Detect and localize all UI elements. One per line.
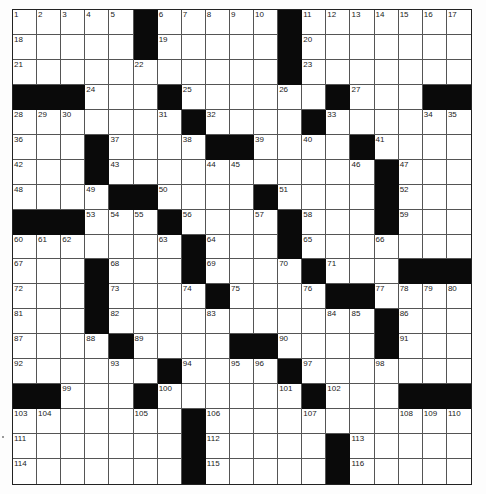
grid-cell[interactable] [182,35,206,60]
grid-cell[interactable] [254,259,278,284]
grid-cell[interactable]: 34 [423,110,447,135]
grid-cell[interactable]: 4 [85,10,109,35]
grid-cell[interactable] [447,459,471,484]
grid-cell[interactable] [326,359,350,384]
grid-cell[interactable]: 11 [302,10,326,35]
grid-cell[interactable] [230,235,254,260]
grid-cell[interactable] [158,60,182,85]
grid-cell[interactable] [182,384,206,409]
grid-cell[interactable]: 113 [350,434,374,459]
grid-cell[interactable]: 111 [13,434,37,459]
grid-cell[interactable] [350,235,374,260]
grid-cell[interactable]: 47 [399,160,423,185]
grid-cell[interactable] [350,359,374,384]
grid-cell[interactable] [61,359,85,384]
grid-cell[interactable]: 61 [37,235,61,260]
grid-cell[interactable] [375,85,399,110]
grid-cell[interactable] [85,459,109,484]
grid-cell[interactable] [61,35,85,60]
grid-cell[interactable]: 15 [399,10,423,35]
grid-cell[interactable] [326,409,350,434]
grid-cell[interactable] [230,384,254,409]
grid-cell[interactable] [447,35,471,60]
grid-cell[interactable] [206,359,230,384]
grid-cell[interactable] [447,359,471,384]
grid-cell[interactable] [230,309,254,334]
grid-cell[interactable]: 92 [13,359,37,384]
grid-cell[interactable]: 100 [158,384,182,409]
grid-cell[interactable]: 38 [182,135,206,160]
grid-cell[interactable] [350,259,374,284]
grid-cell[interactable]: 19 [158,35,182,60]
grid-cell[interactable] [134,85,158,110]
grid-cell[interactable] [447,160,471,185]
grid-cell[interactable] [134,459,158,484]
grid-cell[interactable] [85,110,109,135]
grid-cell[interactable]: 114 [13,459,37,484]
grid-cell[interactable] [206,210,230,235]
grid-cell[interactable]: 3 [61,10,85,35]
grid-cell[interactable] [326,334,350,359]
grid-cell[interactable]: 54 [109,210,133,235]
grid-cell[interactable] [61,185,85,210]
grid-cell[interactable] [109,110,133,135]
grid-cell[interactable] [399,85,423,110]
grid-cell[interactable] [278,135,302,160]
grid-cell[interactable]: 29 [37,110,61,135]
grid-cell[interactable] [206,85,230,110]
grid-cell[interactable]: 101 [278,384,302,409]
grid-cell[interactable] [182,160,206,185]
grid-cell[interactable] [37,284,61,309]
grid-cell[interactable] [158,284,182,309]
grid-cell[interactable] [134,284,158,309]
grid-cell[interactable] [350,35,374,60]
grid-cell[interactable]: 109 [423,409,447,434]
grid-cell[interactable] [230,35,254,60]
grid-cell[interactable] [399,135,423,160]
grid-cell[interactable] [375,35,399,60]
grid-cell[interactable] [254,434,278,459]
grid-cell[interactable] [350,110,374,135]
grid-cell[interactable] [37,334,61,359]
grid-cell[interactable]: 32 [206,110,230,135]
grid-cell[interactable]: 93 [109,359,133,384]
grid-cell[interactable] [134,359,158,384]
grid-cell[interactable]: 10 [254,10,278,35]
grid-cell[interactable] [423,35,447,60]
grid-cell[interactable] [134,434,158,459]
grid-cell[interactable] [423,459,447,484]
grid-cell[interactable] [278,160,302,185]
grid-cell[interactable]: 5 [109,10,133,35]
grid-cell[interactable] [206,35,230,60]
grid-cell[interactable] [206,384,230,409]
grid-cell[interactable] [254,60,278,85]
grid-cell[interactable] [254,284,278,309]
grid-cell[interactable] [254,110,278,135]
grid-cell[interactable]: 35 [447,110,471,135]
grid-cell[interactable]: 23 [302,60,326,85]
grid-cell[interactable] [109,459,133,484]
grid-cell[interactable]: 24 [85,85,109,110]
grid-cell[interactable]: 18 [13,35,37,60]
grid-cell[interactable]: 71 [326,259,350,284]
grid-cell[interactable] [109,60,133,85]
grid-cell[interactable] [302,434,326,459]
grid-cell[interactable]: 9 [230,10,254,35]
grid-cell[interactable]: 45 [230,160,254,185]
grid-cell[interactable] [399,35,423,60]
grid-cell[interactable]: 25 [182,85,206,110]
grid-cell[interactable]: 62 [61,235,85,260]
grid-cell[interactable] [37,135,61,160]
grid-cell[interactable]: 58 [302,210,326,235]
grid-cell[interactable] [37,60,61,85]
grid-cell[interactable] [399,459,423,484]
grid-cell[interactable]: 49 [85,185,109,210]
grid-cell[interactable] [85,359,109,384]
grid-cell[interactable] [85,235,109,260]
grid-cell[interactable]: 82 [109,309,133,334]
grid-cell[interactable] [399,110,423,135]
grid-cell[interactable] [375,434,399,459]
grid-cell[interactable] [302,185,326,210]
grid-cell[interactable]: 70 [278,259,302,284]
grid-cell[interactable]: 65 [302,235,326,260]
